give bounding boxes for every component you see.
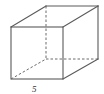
top-right-connector-edge [63,6,98,27]
hidden-bottom-left-connector-edge [11,59,46,79]
cube-diagram: 5 [0,0,104,94]
front-face [11,27,63,79]
bottom-right-connector-edge [63,59,98,79]
top-left-connector-edge [11,6,46,27]
edge-length-label: 5 [32,84,37,94]
